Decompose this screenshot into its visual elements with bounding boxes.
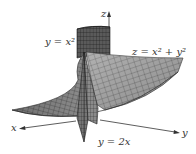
x-axis bbox=[19, 121, 76, 130]
x-axis-arrow-icon bbox=[19, 126, 26, 130]
y-axis-arrow-icon bbox=[174, 130, 181, 134]
surface-intersection-figure: z x y y = x² z = x² + y² y = 2x bbox=[0, 0, 196, 154]
plane-label: y = 2x bbox=[97, 136, 131, 147]
y-axis bbox=[100, 120, 180, 134]
z-axis-label: z bbox=[100, 8, 107, 19]
cylinder-label: y = x² bbox=[44, 36, 75, 47]
z-axis-arrow-icon bbox=[107, 11, 111, 17]
paraboloid-label: z = x² + y² bbox=[131, 46, 186, 57]
x-axis-label: x bbox=[11, 122, 17, 133]
y-axis-label: y bbox=[181, 127, 188, 138]
